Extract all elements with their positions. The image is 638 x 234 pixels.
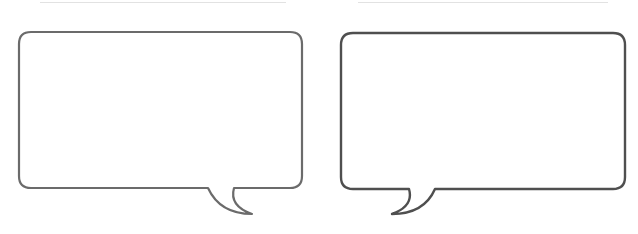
- speech-bubble-left: [19, 32, 302, 214]
- speech-bubbles-canvas: [0, 0, 638, 234]
- speech-bubble-right-outline: [341, 33, 625, 214]
- speech-bubble-right: [341, 33, 625, 214]
- speech-bubble-left-outline: [19, 32, 302, 214]
